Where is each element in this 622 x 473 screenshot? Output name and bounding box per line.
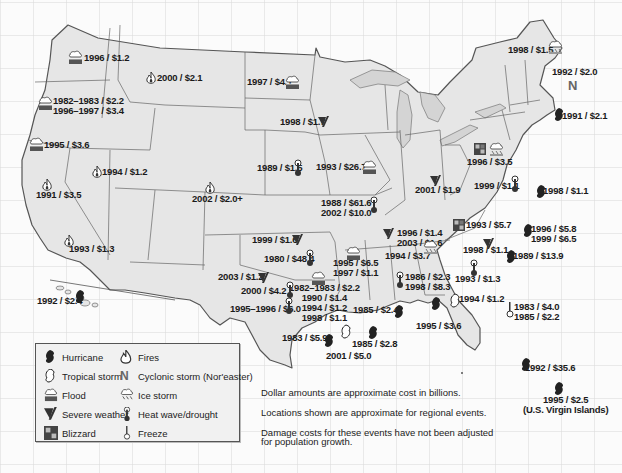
event-north-dakota: 1997 / $4.1: [247, 77, 292, 87]
hurricane-icon: [44, 350, 58, 364]
event-alabama: 1986 / $2.3 1998 / $8.3: [405, 272, 450, 292]
legend-ice-storm: Ice storm: [120, 388, 177, 402]
noreaster-icon: N: [120, 369, 134, 383]
fire-icon: [120, 350, 134, 364]
event-minnesota: 1998 / $1.7: [280, 117, 325, 127]
event-iowa: 1993 / $26.7: [316, 162, 366, 172]
event-texas-panhandle: 2003 / $1.2: [218, 272, 263, 282]
heat-wave-icon: [120, 407, 134, 421]
event-tennessee: 1996 / $1.4 2003 / $1.6: [397, 228, 442, 248]
legend-heat-wave: Heat wave/drought: [120, 407, 218, 421]
event-hawaii: 1992 / $2.4: [37, 296, 82, 306]
legend-flood: Flood: [44, 388, 86, 402]
event-north-carolina: 1996 / $5.8 1999 / $6.5: [531, 224, 576, 244]
legend-freeze: Freeze: [120, 426, 168, 440]
tropical-storm-icon: [44, 369, 58, 383]
event-new-england: 1998 / $1.5: [508, 45, 553, 55]
event-kansas: 1999 / $1.6: [252, 235, 297, 245]
event-nebraska: 1989 / $1.5: [257, 163, 302, 173]
event-georgia-carolinas: 1998 / $1.1: [463, 245, 508, 255]
event-alabama-gulf: 1995 / $3.6: [416, 321, 461, 331]
legend-fires: Fires: [120, 350, 159, 364]
legend-hurricane: Hurricane: [44, 350, 103, 364]
event-central-florida: 1983 / $4.0 1985 / $2.2: [514, 302, 559, 322]
note-damage-costs-line2: for population growth.: [261, 437, 352, 447]
event-houston: 2001 / $5.0: [326, 351, 371, 361]
legend-severe-weather: Severe weather: [44, 407, 129, 421]
event-south-carolina: 1989 / $13.9: [513, 251, 563, 261]
event-virginia: 1998 / $1.1: [543, 186, 588, 196]
event-georgia: 1993 / $1.3: [455, 274, 500, 284]
event-mississippi: 1994 / $3.7: [385, 251, 430, 261]
event-oregon: 1982–1983 / $2.2 1996–1997 / $3.4: [53, 96, 124, 116]
event-oklahoma: 1980 / $48.4: [264, 254, 314, 264]
event-southeast-blizzard: 1993 / $5.7: [466, 220, 511, 230]
event-florida-panhandle: 1994 / $1.2: [459, 294, 504, 304]
event-indiana: 2001 / $1.9: [415, 185, 460, 195]
flood-icon: [44, 388, 58, 402]
event-rhode-island: 1991 / $2.1: [562, 111, 607, 121]
event-colorado: 2002 / $2.0+: [192, 194, 243, 204]
event-nevada: 1994 / $1.2: [102, 167, 147, 177]
event-montana: 2000 / $2.1: [157, 73, 202, 83]
note-locations: Locations shown are approximate for regi…: [261, 408, 487, 418]
event-mid-atlantic: 1999 / $1.1: [474, 181, 519, 191]
legend: Hurricane Tropical storm Flood Severe we…: [35, 343, 240, 442]
severe-weather-icon: [44, 407, 58, 421]
event-louisiana-gulf: 1985 / $2.8: [352, 339, 397, 349]
freeze-icon: [120, 426, 134, 440]
ice-storm-icon: [120, 388, 134, 402]
event-south-california: 1993 / $1.3: [69, 244, 114, 254]
event-louisiana: 1985 / $2.4: [353, 305, 398, 315]
blizzard-icon: [44, 426, 58, 440]
event-south-florida: 1992 / $35.6: [525, 363, 575, 373]
event-washington: 1996 / $1.2: [84, 53, 129, 63]
event-virgin-islands: 1995 / $2.5 (U.S. Virgin Islands): [523, 395, 608, 415]
event-new-hampshire: 1992 / $2.0: [552, 67, 597, 77]
event-missouri: 1988 / $61.6 2002 / $10.0: [321, 198, 371, 218]
event-north-california: 1995 / $3.6: [44, 140, 89, 150]
event-arkansas: 1995 / $6.5 1997 / $1.1: [333, 258, 378, 278]
note-dollar-amounts: Dollar amounts are approximate cost in b…: [261, 388, 461, 398]
event-ohio-valley: 1996 / $3.5: [467, 157, 512, 167]
legend-tropical-storm: Tropical storm: [44, 369, 122, 383]
event-west-texas: 2000 / $4.2: [241, 286, 286, 296]
legend-blizzard: Blizzard: [44, 426, 96, 440]
legend-noreaster: N Cyclonic storm (Nor'easter): [120, 369, 253, 383]
event-central-texas: 1995–1996 / $6.0: [230, 304, 301, 314]
disaster-map: 1996 / $1.2 2000 / $2.1 1982–1983 / $2.2…: [0, 0, 622, 473]
event-texas-gulf: 1983 / $5.9: [282, 333, 327, 343]
event-california-1991: 1991 / $3.5: [36, 190, 81, 200]
